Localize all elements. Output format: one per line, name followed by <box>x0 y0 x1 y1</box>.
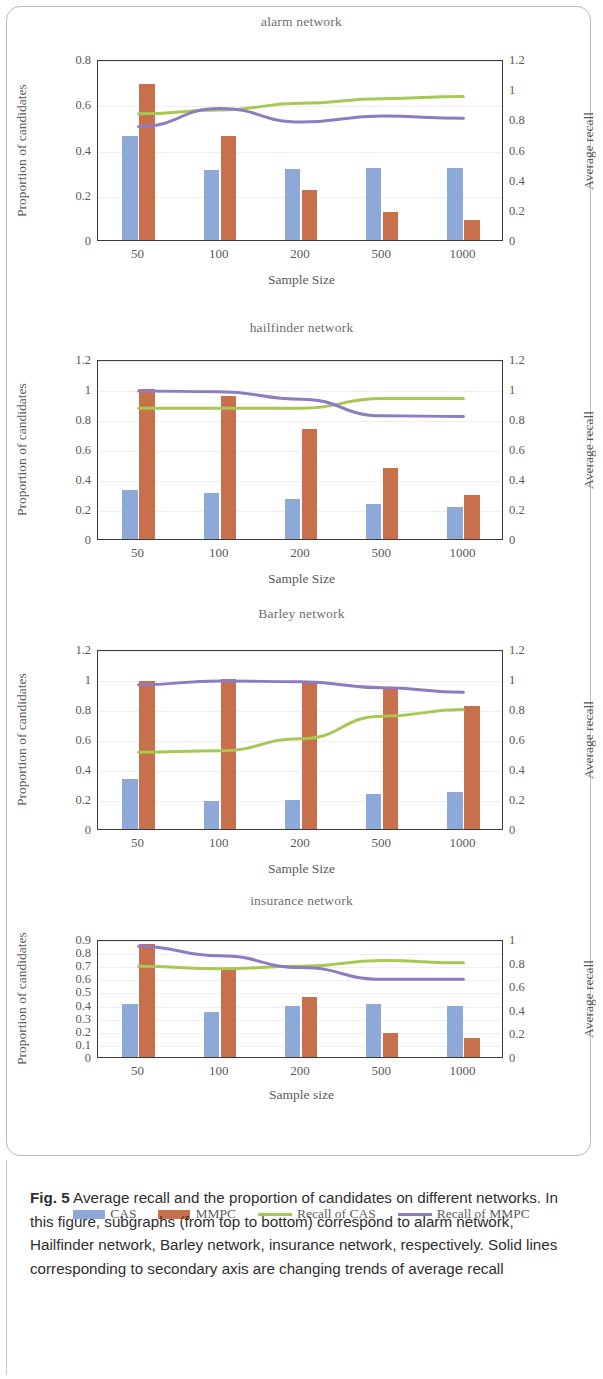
y-tick-label: 0.6 <box>49 973 91 986</box>
chart-panel: Barley network <box>0 606 603 607</box>
bar-group <box>179 361 260 539</box>
y-tick-label: 0 <box>49 1052 91 1065</box>
bar-group <box>423 941 504 1057</box>
y-tick-label: 0.6 <box>49 444 91 457</box>
bar-group <box>260 941 341 1057</box>
secondary-y-axis-ticks: 00.20.40.60.81 <box>505 940 551 1058</box>
caption-text: Average recall and the proportion of can… <box>30 1189 558 1277</box>
secondary-y-axis-label: Average recall <box>581 934 597 1064</box>
chart-title: hailfinder network <box>0 320 603 336</box>
chart-title: alarm network <box>0 14 603 30</box>
y-tick-label: 0.4 <box>49 474 91 487</box>
x-axis-label: Sample size <box>0 1087 603 1103</box>
y-tick-label: 0 <box>49 235 91 248</box>
y-tick-label: 0.1 <box>49 1039 91 1052</box>
bar-group <box>342 941 423 1057</box>
bar-cas <box>366 1004 381 1057</box>
x-axis-ticks: 501002005001000 <box>97 1063 503 1081</box>
bar-mmpc <box>383 687 398 829</box>
bar-group <box>98 651 179 829</box>
bar-mmpc <box>221 136 236 240</box>
y-tick-label: 0.8 <box>49 947 91 960</box>
bar-cas <box>447 792 462 830</box>
bar-cas <box>204 801 219 829</box>
secondary-y-axis-ticks: 00.20.40.60.811.2 <box>505 60 551 241</box>
secondary-y-tick-label: 0.8 <box>509 958 551 971</box>
y-tick-label: 0.2 <box>49 1026 91 1039</box>
bar-mmpc <box>139 389 154 539</box>
bar-mmpc <box>464 495 479 539</box>
bar-series-group <box>98 61 502 240</box>
y-axis-label: Proportion of candidates <box>14 644 30 836</box>
bar-group <box>98 61 179 240</box>
y-tick-label: 0 <box>49 534 91 547</box>
x-tick-label: 200 <box>290 1063 310 1079</box>
y-tick-label: 1.2 <box>49 644 91 657</box>
bar-cas <box>366 168 381 240</box>
bar-mmpc <box>383 212 398 240</box>
bar-cas <box>285 499 300 539</box>
bar-mmpc <box>464 220 479 240</box>
y-tick-label: 0.2 <box>49 190 91 203</box>
secondary-y-tick-label: 0.6 <box>509 444 551 457</box>
y-tick-label: 0.8 <box>49 704 91 717</box>
bar-cas <box>447 1006 462 1057</box>
bar-cas <box>366 794 381 829</box>
secondary-y-tick-label: 0.6 <box>509 145 551 158</box>
y-tick-label: 0.6 <box>49 99 91 112</box>
bar-group <box>342 651 423 829</box>
plot-area <box>97 60 503 241</box>
bar-group <box>179 941 260 1057</box>
secondary-y-tick-label: 1.2 <box>509 644 551 657</box>
y-axis-label: Proportion of candidates <box>14 354 30 546</box>
bar-mmpc <box>383 468 398 539</box>
x-tick-label: 200 <box>290 246 310 262</box>
secondary-y-tick-label: 0.4 <box>509 175 551 188</box>
y-axis-label: Proportion of candidates <box>14 934 30 1064</box>
x-tick-label: 50 <box>131 835 144 851</box>
secondary-y-axis-label: Average recall <box>581 644 597 836</box>
secondary-y-tick-label: 0.2 <box>509 205 551 218</box>
caption-label: Fig. 5 <box>30 1189 70 1206</box>
bar-cas <box>204 170 219 240</box>
bar-mmpc <box>464 1038 479 1057</box>
bar-mmpc <box>221 396 236 539</box>
bar-cas <box>204 1012 219 1057</box>
secondary-y-tick-label: 1.2 <box>509 54 551 67</box>
y-axis-ticks: 00.10.20.30.40.50.60.70.80.9 <box>49 940 95 1058</box>
y-tick-label: 0.6 <box>49 734 91 747</box>
bar-group <box>423 61 504 240</box>
bar-mmpc <box>302 681 317 829</box>
bar-group <box>98 941 179 1057</box>
chart-title: insurance network <box>0 893 603 909</box>
plot-area <box>97 650 503 830</box>
figure-caption: Fig. 5 Average recall and the proportion… <box>30 1186 575 1280</box>
y-tick-label: 0.8 <box>49 54 91 67</box>
bar-group <box>260 61 341 240</box>
bar-group <box>423 361 504 539</box>
bar-series-group <box>98 651 502 829</box>
chart-title: Barley network <box>0 606 603 622</box>
secondary-y-tick-label: 1 <box>509 384 551 397</box>
y-tick-label: 0.4 <box>49 1000 91 1013</box>
bar-group <box>179 61 260 240</box>
bar-cas <box>447 507 462 539</box>
y-tick-label: 0.4 <box>49 145 91 158</box>
bar-cas <box>285 169 300 240</box>
bar-cas <box>122 136 137 240</box>
x-tick-label: 100 <box>209 545 229 561</box>
x-tick-label: 500 <box>371 545 391 561</box>
x-tick-label: 1000 <box>449 835 475 851</box>
x-tick-label: 100 <box>209 835 229 851</box>
y-axis-ticks: 00.20.40.60.811.2 <box>49 650 95 830</box>
x-tick-label: 100 <box>209 246 229 262</box>
bar-mmpc <box>139 681 154 829</box>
bar-mmpc <box>302 190 317 240</box>
bar-cas <box>285 1006 300 1057</box>
y-tick-label: 0.4 <box>49 764 91 777</box>
bar-mmpc <box>302 997 317 1057</box>
y-axis-ticks: 00.20.40.60.8 <box>49 60 95 241</box>
chart-panel: alarm network <box>0 14 603 15</box>
x-tick-label: 100 <box>209 1063 229 1079</box>
secondary-y-tick-label: 1 <box>509 674 551 687</box>
